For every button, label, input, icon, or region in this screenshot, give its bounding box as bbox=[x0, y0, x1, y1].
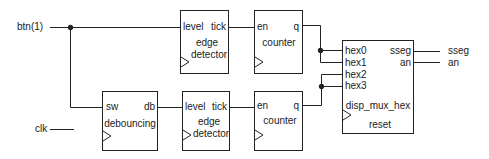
clock-triangle-icon bbox=[255, 130, 263, 140]
q1-wire bbox=[302, 26, 342, 63]
mux-hex3: hex3 bbox=[345, 80, 367, 91]
edge2-out: tick bbox=[212, 101, 227, 112]
clock-triangle-icon bbox=[183, 130, 191, 140]
junction-dot bbox=[319, 84, 324, 89]
counter2-out: q bbox=[293, 100, 299, 111]
wires-and-blocks bbox=[0, 0, 489, 159]
q2-wire bbox=[302, 75, 342, 106]
mux-hex1: hex1 bbox=[345, 57, 367, 68]
clock-triangle-icon bbox=[343, 110, 351, 120]
an-output-label: an bbox=[448, 57, 459, 68]
debounce-out: db bbox=[144, 101, 155, 112]
debounce-in: sw bbox=[106, 101, 118, 112]
counter1-in: en bbox=[257, 21, 268, 32]
edge2-in: level bbox=[185, 101, 206, 112]
mux-hex0: hex0 bbox=[345, 45, 367, 56]
btn-wire bbox=[50, 27, 180, 108]
mux-name: disp_mux_hex bbox=[346, 100, 410, 111]
counter2-in: en bbox=[257, 100, 268, 111]
edge1-name1: edge bbox=[196, 37, 218, 48]
out-wires bbox=[413, 52, 440, 63]
edge1-name2: detector bbox=[191, 49, 227, 60]
counter2-name: counter bbox=[263, 115, 296, 126]
block-diagram: btn(1) clk level tick edge detector en q… bbox=[0, 0, 489, 159]
counter1-name: counter bbox=[262, 37, 295, 48]
mux-an: an bbox=[400, 57, 411, 68]
clock-triangle-icon bbox=[103, 131, 111, 141]
junction-dot bbox=[318, 48, 323, 53]
mux-sseg: sseg bbox=[390, 45, 411, 56]
counter1-out: q bbox=[293, 21, 299, 32]
clock-triangle-icon bbox=[255, 57, 263, 67]
btn-label: btn(1) bbox=[17, 21, 43, 32]
edge1-in: level bbox=[183, 21, 204, 32]
edge2-name2: detector bbox=[193, 128, 229, 139]
junction-dot bbox=[68, 25, 73, 30]
debounce-name: debouncing bbox=[104, 118, 156, 129]
mux-reset: reset bbox=[369, 119, 391, 130]
edge1-out: tick bbox=[211, 21, 226, 32]
clock-triangle-icon bbox=[181, 57, 189, 67]
sseg-output-label: sseg bbox=[448, 45, 469, 56]
mux-hex2: hex2 bbox=[345, 69, 367, 80]
edge2-name1: edge bbox=[198, 116, 220, 127]
clk-label: clk bbox=[35, 123, 47, 134]
